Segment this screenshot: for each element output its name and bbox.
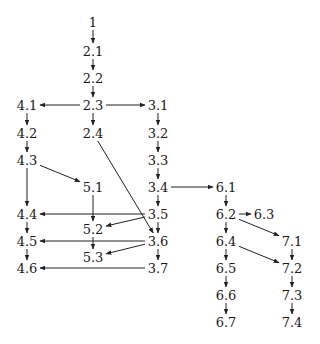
node-7.4: 7.4 bbox=[282, 315, 303, 330]
node-3.4: 3.4 bbox=[148, 180, 169, 195]
edge-3.6-to-5.3 bbox=[106, 244, 145, 254]
node-6.4: 6.4 bbox=[216, 234, 237, 249]
node-4.2: 4.2 bbox=[17, 126, 38, 141]
node-6.2: 6.2 bbox=[216, 207, 237, 222]
node-4.4: 4.4 bbox=[17, 207, 38, 222]
edge-6.4-to-7.2 bbox=[239, 246, 279, 262]
node-7.1: 7.1 bbox=[282, 234, 303, 249]
node-5.3: 5.3 bbox=[83, 250, 104, 265]
node-7.2: 7.2 bbox=[282, 261, 303, 276]
node-2.2: 2.2 bbox=[83, 71, 104, 86]
node-5.2: 5.2 bbox=[83, 222, 104, 237]
node-4.3: 4.3 bbox=[17, 153, 38, 168]
node-2.1: 2.1 bbox=[83, 44, 104, 59]
node-3.2: 3.2 bbox=[148, 126, 169, 141]
edge-2.4-to-3.6 bbox=[98, 141, 153, 233]
node-1: 1 bbox=[89, 15, 97, 30]
node-3.5: 3.5 bbox=[148, 207, 169, 222]
node-3.3: 3.3 bbox=[148, 153, 169, 168]
edge-3.5-to-5.2 bbox=[106, 217, 145, 226]
node-4.6: 4.6 bbox=[17, 261, 38, 276]
node-4.1: 4.1 bbox=[17, 98, 38, 113]
node-6.7: 6.7 bbox=[216, 315, 237, 330]
node-6.3: 6.3 bbox=[254, 207, 275, 222]
node-2.3: 2.3 bbox=[83, 98, 104, 113]
nodes-layer: 12.12.22.32.43.13.23.33.43.53.63.74.14.2… bbox=[17, 15, 303, 330]
node-2.4: 2.4 bbox=[83, 126, 104, 141]
node-6.1: 6.1 bbox=[216, 180, 237, 195]
edge-6.2-to-7.1 bbox=[239, 219, 279, 235]
dependency-graph: 12.12.22.32.43.13.23.33.43.53.63.74.14.2… bbox=[0, 0, 320, 344]
node-3.6: 3.6 bbox=[148, 234, 169, 249]
node-3.7: 3.7 bbox=[148, 261, 169, 276]
node-5.1: 5.1 bbox=[83, 180, 104, 195]
node-4.5: 4.5 bbox=[17, 234, 38, 249]
node-6.5: 6.5 bbox=[216, 261, 237, 276]
node-3.1: 3.1 bbox=[148, 98, 169, 113]
node-6.6: 6.6 bbox=[216, 288, 237, 303]
edge-4.3-to-5.1 bbox=[40, 165, 80, 181]
node-7.3: 7.3 bbox=[282, 288, 303, 303]
